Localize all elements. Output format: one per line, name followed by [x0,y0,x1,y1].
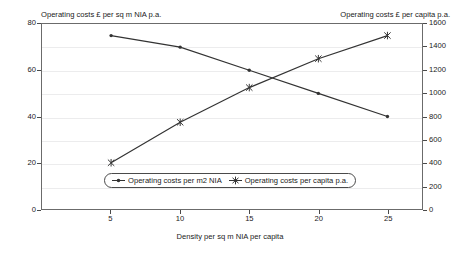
y2-axis-tick-label: 1200 [429,65,460,74]
data-point [178,45,181,48]
tick-mark [423,163,427,164]
x-axis-title: Density per sq m NIA per capita [0,232,460,241]
data-point [315,55,321,63]
legend-item[interactable]: Operating costs per capita p.a. [229,176,348,185]
y-axis-tick-label: 20 [0,158,36,167]
left-axis-title: Operating costs £ per sq m NIA p.a. [41,10,161,19]
tick-mark [423,210,427,211]
tick-mark [37,117,41,118]
x-axis-tick-label: 25 [368,214,408,223]
tick-mark [37,163,41,164]
legend-label: Operating costs per m2 NIA [128,176,222,185]
tick-mark [423,46,427,47]
y-axis-tick-label: 80 [0,18,36,27]
x-axis-tick-label: 15 [229,214,269,223]
chart-container: Operating costs £ per sq m NIA p.a. Oper… [0,0,460,256]
legend-label: Operating costs per capita p.a. [245,176,348,185]
data-point [317,92,320,95]
y-axis-tick-label: 0 [0,205,36,214]
tick-mark [423,187,427,188]
y-axis-tick-label: 60 [0,65,36,74]
tick-mark [249,210,250,214]
data-point [384,32,390,40]
tick-mark [110,210,111,214]
y2-axis-tick-label: 400 [429,158,460,167]
x-axis-tick-label: 20 [299,214,339,223]
series-line [111,36,387,163]
data-point [248,69,251,72]
tick-mark [180,210,181,214]
y2-axis-tick-label: 800 [429,112,460,121]
chart-legend: Operating costs per m2 NIAOperating cost… [104,173,356,188]
series-line [111,36,387,117]
y2-axis-tick-label: 600 [429,135,460,144]
cross-line-marker [229,176,242,185]
data-point [246,84,252,92]
tick-mark [319,210,320,214]
tick-mark [423,93,427,94]
y2-axis-tick-label: 1400 [429,41,460,50]
tick-mark [37,210,41,211]
y2-axis-tick-label: 1000 [429,88,460,97]
y2-axis-tick-label: 200 [429,182,460,191]
data-point [177,119,183,127]
tick-mark [423,140,427,141]
data-point [108,159,114,167]
y-axis-tick-label: 40 [0,112,36,121]
tick-mark [388,210,389,214]
y2-axis-tick-label: 0 [429,205,460,214]
x-axis-tick-label: 10 [160,214,200,223]
legend-item[interactable]: Operating costs per m2 NIA [112,176,222,185]
tick-mark [423,23,427,24]
data-point [386,115,389,118]
x-axis-tick-label: 5 [90,214,130,223]
y2-axis-tick-label: 1600 [429,18,460,27]
tick-mark [423,70,427,71]
tick-mark [423,117,427,118]
tick-mark [37,23,41,24]
dot-line-marker [112,176,125,185]
data-point [109,34,112,37]
tick-mark [37,70,41,71]
